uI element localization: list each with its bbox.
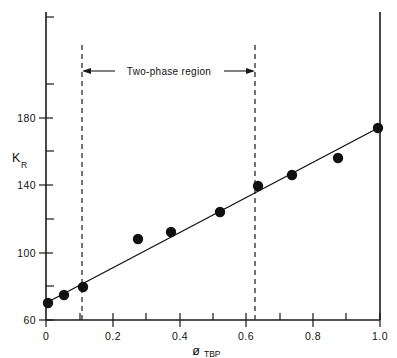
- data-point: [59, 290, 69, 300]
- y-tick-label-180: 180: [17, 112, 36, 124]
- y-tick-label-60: 60: [24, 314, 36, 326]
- y-tick-labels: 180 140 100 60: [17, 112, 36, 326]
- annotation-arrowhead-right: [246, 68, 255, 74]
- annotation-arrowhead-left: [82, 68, 91, 74]
- x-axis-title: ø TBP: [192, 344, 221, 358]
- y-tick-label-100: 100: [17, 247, 36, 259]
- x-axis-title-main: ø: [192, 344, 200, 358]
- axes-group: [46, 12, 380, 320]
- x-tick-labels: 0 0.2 0.4 0.6 0.8 1.0: [43, 330, 388, 342]
- data-point: [166, 227, 176, 237]
- x-tick-label-0.4: 0.4: [172, 330, 188, 342]
- y-axis-title-main: K: [12, 151, 21, 165]
- y-axis-title-sub: R: [21, 160, 27, 170]
- x-tick-label-0.8: 0.8: [305, 330, 321, 342]
- regression-line: [46, 127, 380, 303]
- two-phase-region-annotation: Two-phase region: [82, 66, 255, 77]
- y-axis-title: K R: [12, 151, 27, 170]
- x-minor-ticks: [80, 313, 346, 320]
- chart-figure: 180 140 100 60 K R 0: [0, 0, 397, 358]
- data-point: [333, 153, 343, 163]
- vertical-markers-group: [82, 45, 255, 320]
- data-point: [373, 123, 383, 133]
- data-point: [253, 181, 263, 191]
- x-tick-label-1.0: 1.0: [372, 330, 388, 342]
- data-point: [133, 234, 143, 244]
- data-point: [43, 298, 53, 308]
- x-tick-label-0.6: 0.6: [238, 330, 254, 342]
- x-tick-label-0.0: 0: [43, 330, 49, 342]
- x-tick-label-0.2: 0.2: [105, 330, 121, 342]
- fit-line-group: [46, 127, 380, 303]
- data-point: [78, 282, 88, 292]
- y-tick-label-140: 140: [17, 179, 36, 191]
- scatter-plot: 180 140 100 60 K R 0: [0, 0, 397, 358]
- y-minor-ticks: [46, 17, 54, 286]
- data-point: [215, 207, 225, 217]
- x-axis-title-sub: TBP: [204, 349, 221, 358]
- data-point: [287, 170, 297, 180]
- annotation-label: Two-phase region: [127, 66, 211, 77]
